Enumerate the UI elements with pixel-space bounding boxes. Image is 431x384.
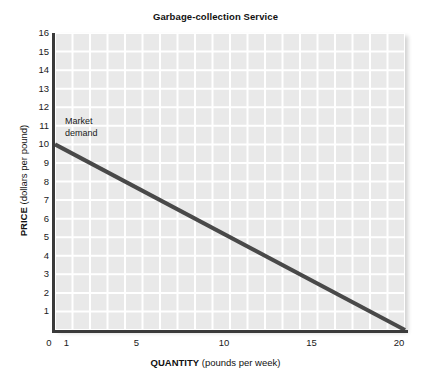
market-demand-label: Market demand (65, 116, 98, 139)
y-tick-label: 14 (3, 65, 49, 75)
y-axis-title-units (18, 205, 29, 208)
x-axis-title-rest: (pounds per week) (202, 357, 281, 368)
y-axis-title: PRICE (dollars per pound) (18, 81, 29, 281)
y-tick-label: 15 (3, 47, 49, 57)
x-tick-label: 15 (306, 338, 317, 348)
x-axis-spine (52, 330, 408, 333)
x-axis-title: QUANTITY (pounds per week) (0, 357, 431, 368)
y-axis-title-bold: PRICE (18, 207, 29, 236)
market-demand-label-line2: demand (65, 128, 98, 140)
demand-curve (55, 33, 405, 330)
x-tick-label: 5 (134, 338, 139, 348)
y-axis-title-rest: (dollars per pound) (18, 125, 29, 205)
chart-figure: Garbage-collection Service 1234567891011… (0, 0, 431, 384)
chart-title: Garbage-collection Service (0, 11, 431, 22)
x-axis-tick-labels: 015101520 (0, 338, 431, 352)
x-tick-label: 10 (219, 338, 230, 348)
y-tick-label: 2 (3, 288, 49, 298)
x-tick-label: 20 (394, 338, 405, 348)
x-tick-label: 0 (46, 338, 51, 348)
x-axis-title-bold: QUANTITY (151, 357, 200, 368)
y-tick-label: 16 (3, 28, 49, 38)
y-axis-spine (52, 33, 55, 333)
x-tick-label: 1 (64, 338, 69, 348)
plot-area (55, 33, 405, 330)
market-demand-label-line1: Market (65, 116, 98, 128)
y-tick-label: 1 (3, 307, 49, 317)
